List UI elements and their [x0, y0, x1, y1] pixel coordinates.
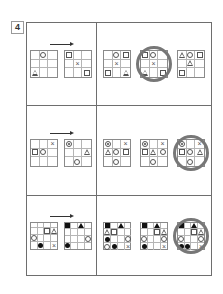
grid-cell [65, 149, 74, 158]
grid-cell [150, 157, 159, 166]
cross-icon: × [151, 60, 155, 67]
grid-cell [78, 243, 85, 249]
grid-cell [51, 235, 57, 242]
grid-cell [195, 149, 204, 158]
grid-cell [195, 51, 204, 60]
grid-cell: × [198, 243, 204, 250]
grid-cell [178, 243, 185, 250]
square-icon [32, 149, 38, 155]
triangle-icon [197, 149, 203, 155]
target-icon [179, 141, 185, 147]
grid-cell [104, 157, 113, 166]
cross-icon: × [51, 140, 55, 147]
circle-icon [113, 149, 119, 155]
ftriangle-icon [78, 223, 84, 228]
fsquare-icon [179, 223, 184, 228]
circle-icon [40, 149, 46, 155]
grid-cell: × [51, 242, 57, 249]
grid-cell [31, 242, 38, 249]
grid-cell [121, 68, 130, 77]
circle-icon [150, 159, 156, 165]
example-after-grid [64, 139, 92, 167]
ftriangle-icon [154, 223, 160, 228]
example-before-grid: × [30, 139, 58, 167]
answer-option-1: × [103, 139, 131, 167]
grid-cell [118, 243, 125, 250]
arrow-right-icon [50, 216, 72, 217]
square-icon [105, 70, 111, 76]
grid-cell [31, 51, 40, 60]
grid-cell [178, 229, 185, 236]
grid-cell [82, 149, 91, 158]
grid-cell [187, 68, 196, 77]
grid-cell [74, 140, 83, 149]
grid-cell [74, 68, 83, 77]
circle-icon [40, 52, 46, 58]
grid-cell [191, 243, 198, 250]
grid-cell [161, 229, 167, 236]
grid-cell [178, 157, 187, 166]
circle-icon [74, 159, 80, 165]
grid-cell [31, 68, 40, 77]
grid-cell [154, 243, 161, 250]
grid-cell: × [150, 60, 159, 69]
example-after-grid [64, 222, 92, 250]
square-icon [84, 70, 90, 76]
example-before-grid [30, 50, 58, 78]
row-divider-1 [26, 105, 212, 106]
grid-cell [65, 51, 74, 60]
fcircle-icon [65, 243, 70, 248]
grid-cell [31, 149, 40, 158]
grid-cell [44, 242, 51, 249]
triangle-icon [123, 70, 129, 76]
cross-icon: × [198, 140, 202, 147]
grid-cell [187, 140, 196, 149]
grid-cell [121, 60, 130, 69]
fcircle-icon [179, 244, 184, 249]
triangle-icon [187, 60, 193, 66]
ftriangle-icon [118, 223, 124, 228]
circle-icon [150, 52, 156, 58]
grid-cell [158, 157, 167, 166]
grid-cell: × [121, 140, 130, 149]
grid-cell [48, 157, 57, 166]
square-icon [44, 228, 50, 234]
circle-icon [113, 159, 119, 165]
column-divider [96, 22, 97, 276]
grid-cell [118, 229, 125, 236]
answer-option-2: × [140, 222, 168, 250]
square-icon [142, 149, 148, 155]
fsquare-icon [142, 223, 147, 228]
grid-cell [104, 236, 111, 243]
answer-option-1: × [103, 50, 131, 78]
grid-cell [178, 149, 187, 158]
grid-cell [51, 228, 57, 235]
grid-cell [141, 243, 148, 250]
grid-cell [48, 60, 57, 69]
cross-icon: × [52, 242, 56, 249]
grid-cell [198, 236, 204, 243]
triangle-icon [150, 149, 156, 155]
grid-cell [104, 243, 111, 250]
grid-cell [150, 149, 159, 158]
grid-cell [178, 236, 185, 243]
grid-cell [150, 51, 159, 60]
grid-cell [44, 235, 51, 242]
grid-cell [178, 60, 187, 69]
target-icon [66, 141, 72, 147]
square-icon [160, 70, 166, 76]
grid-cell [40, 140, 49, 149]
grid-cell [158, 68, 167, 77]
grid-cell [161, 236, 167, 243]
grid-cell [85, 236, 91, 243]
answer-option-3: × [177, 222, 205, 250]
grid-cell [40, 68, 49, 77]
grid-cell [111, 229, 118, 236]
grid-cell [150, 140, 159, 149]
square-icon [191, 229, 197, 235]
ftriangle-icon [191, 223, 197, 228]
grid-cell [82, 157, 91, 166]
problem-number: 4 [11, 21, 24, 34]
grid-cell [65, 68, 74, 77]
fcircle-icon [38, 243, 43, 248]
